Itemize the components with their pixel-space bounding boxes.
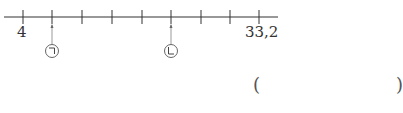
answer-open-paren: ( (253, 76, 260, 94)
start-label: 4 (17, 25, 27, 40)
end-label: 33,2 (245, 25, 278, 40)
arrow-head-icon (170, 24, 173, 28)
marker-nieun (165, 24, 178, 58)
marker-symbol (49, 48, 55, 54)
arrow-head-icon (51, 24, 54, 28)
marker-giyeok (46, 24, 59, 58)
marker-symbol (169, 47, 175, 54)
number-line (0, 0, 403, 113)
marker-arrows (46, 24, 178, 58)
answer-close-paren: ) (396, 76, 403, 94)
